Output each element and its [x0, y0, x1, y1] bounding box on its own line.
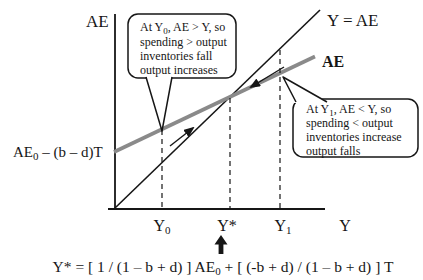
- callout-y1: At Y1, AE < Y, so spending < output inve…: [283, 77, 418, 158]
- callout-y1-line3: inventories increase: [306, 130, 402, 144]
- x-axis-title: Y: [339, 217, 351, 234]
- equilibrium-formula: Y* = [ 1 / (1 – b + d) ] AE0 + [ (-b + d…: [53, 258, 394, 277]
- ae-line-label: AE: [322, 53, 344, 70]
- callout-y1-line2: spending < output: [306, 116, 393, 130]
- tick-y0: Y0: [153, 217, 171, 236]
- callout-y0-line4: output increases: [140, 63, 218, 77]
- callout-y0: At Y0, AE > Y, so spending > output inve…: [128, 14, 236, 131]
- callout-y1-line4: output falls: [306, 144, 361, 158]
- keynesian-cross-diagram: At Y0, AE > Y, so spending > output inve…: [0, 0, 423, 280]
- intercept-label: AE0 – (b – d)T: [13, 144, 103, 162]
- up-arrow-icon: [215, 235, 228, 254]
- line45-label: Y = AE: [327, 11, 378, 30]
- callout-y0-line2: spending > output: [140, 35, 227, 49]
- callout-y0-line3: inventories fall: [140, 49, 213, 63]
- diagram-canvas: At Y0, AE > Y, so spending > output inve…: [0, 0, 423, 280]
- y-axis-title: AE: [86, 12, 109, 31]
- tick-y1: Y1: [274, 217, 291, 236]
- callout-y0-line1: At Y0, AE > Y, so: [140, 20, 225, 36]
- tick-ystar: Y*: [217, 217, 237, 234]
- adjustment-arrow-left-icon: [251, 67, 284, 87]
